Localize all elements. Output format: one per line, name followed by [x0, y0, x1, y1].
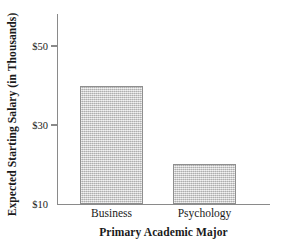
category-label-psychology: Psychology	[169, 207, 240, 219]
y-tick-50: $50	[0, 40, 58, 53]
category-label-business: Business	[80, 207, 143, 219]
bar-chart-figure: Expected Starting Salary (in Thousands) …	[0, 0, 285, 249]
x-axis-title: Primary Academic Major	[57, 226, 270, 238]
y-tick-label-10: $10	[12, 198, 58, 211]
y-tick-10: $10	[0, 198, 58, 211]
y-tick-mark-50	[51, 45, 58, 46]
bar-business	[80, 86, 143, 205]
y-tick-30: $30	[0, 119, 58, 132]
bar-psychology	[173, 164, 236, 205]
y-tick-mark-30	[51, 124, 58, 125]
